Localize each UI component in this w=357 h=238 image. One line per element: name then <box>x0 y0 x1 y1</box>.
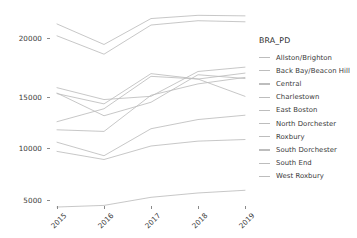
y-tick-label: 5000 <box>2 196 42 205</box>
legend-item-label: Roxbury <box>276 133 305 141</box>
legend-item[interactable]: Back Bay/Beacon Hill <box>259 64 355 77</box>
legend-item[interactable]: Charlestown <box>259 91 355 104</box>
legend-swatch-icon <box>259 123 270 124</box>
series-line <box>57 67 245 99</box>
legend-item-label: South End <box>276 159 312 167</box>
series-line <box>57 115 245 156</box>
legend-swatch-icon <box>259 110 270 111</box>
legend-item[interactable]: Roxbury <box>259 130 355 143</box>
legend-item[interactable]: North Dorchester <box>259 117 355 130</box>
y-tick-mark <box>47 38 50 39</box>
series-line <box>57 74 245 104</box>
x-tick-mark <box>57 206 58 209</box>
chart-legend: BRA_PD Allston/BrightonBack Bay/Beacon H… <box>259 36 355 183</box>
legend-item[interactable]: East Boston <box>259 104 355 117</box>
series-line <box>57 21 245 54</box>
legend-swatch-icon <box>259 83 270 84</box>
x-tick-mark <box>245 206 246 209</box>
legend-item-label: Allston/Brighton <box>276 54 332 62</box>
legend-item-label: Charlestown <box>276 93 319 101</box>
legend-item-label: Central <box>276 80 301 88</box>
legend-item[interactable]: South End <box>259 157 355 170</box>
legend-item-label: West Roxbury <box>276 172 324 180</box>
series-line <box>57 190 245 207</box>
series-line <box>57 73 245 122</box>
legend-swatch-icon <box>259 70 270 71</box>
legend-item[interactable]: Central <box>259 77 355 90</box>
chart-root: 20000 15000 10000 5000 2015 2016 2017 20… <box>0 0 357 238</box>
x-tick-mark <box>104 206 105 209</box>
legend-item-label: Back Bay/Beacon Hill <box>276 67 350 75</box>
y-tick-mark <box>47 97 50 98</box>
legend-item[interactable]: West Roxbury <box>259 170 355 183</box>
legend-title: BRA_PD <box>259 36 355 45</box>
y-tick-label: 15000 <box>2 93 42 102</box>
y-tick-mark <box>47 148 50 149</box>
legend-swatch-icon <box>259 149 270 150</box>
legend-item[interactable]: South Dorchester <box>259 143 355 156</box>
x-tick-mark <box>198 206 199 209</box>
x-tick-mark <box>151 206 152 209</box>
series-line <box>57 15 245 44</box>
y-tick-label: 20000 <box>2 34 42 43</box>
legend-item[interactable]: Allston/Brighton <box>259 51 355 64</box>
legend-item-label: East Boston <box>276 106 317 114</box>
y-tick-mark <box>47 200 50 201</box>
series-line <box>57 140 245 160</box>
legend-swatch-icon <box>259 57 270 58</box>
legend-swatch-icon <box>259 136 270 137</box>
legend-swatch-icon <box>259 163 270 164</box>
y-tick-label: 10000 <box>2 144 42 153</box>
legend-swatch-icon <box>259 176 270 177</box>
legend-item-label: North Dorchester <box>276 120 336 128</box>
legend-items: Allston/BrightonBack Bay/Beacon HillCent… <box>259 51 355 183</box>
legend-swatch-icon <box>259 97 270 98</box>
legend-item-label: South Dorchester <box>276 146 337 154</box>
